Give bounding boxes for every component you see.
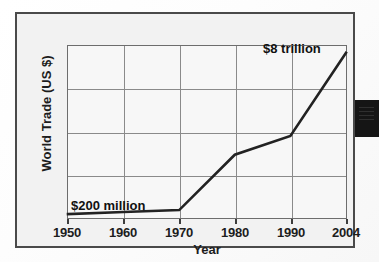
tick-mark-2004	[346, 219, 348, 224]
tab-ridge-2	[359, 111, 374, 112]
x-axis-title: Year	[67, 242, 347, 257]
tick-mark-1960	[123, 219, 125, 224]
y-axis-title: World Trade (US $)	[39, 25, 54, 203]
series-world-trade-line	[68, 53, 346, 214]
figure-page: $200 million $8 trillion 1950 1960 1970 …	[0, 0, 379, 262]
x-tick-label-1960: 1960	[100, 225, 146, 240]
page-edge-tab	[355, 100, 379, 137]
tick-mark-1980	[235, 219, 237, 224]
tick-mark-1950	[67, 219, 69, 224]
figure-frame: $200 million $8 trillion 1950 1960 1970 …	[15, 12, 355, 248]
x-tick-label-1990: 1990	[268, 225, 314, 240]
data-line-layer	[68, 46, 346, 218]
tick-mark-1970	[179, 219, 181, 224]
x-tick-label-1980: 1980	[212, 225, 258, 240]
tab-ridge-1	[359, 107, 374, 108]
tick-mark-1990	[291, 219, 293, 224]
tab-ridge-3	[359, 115, 374, 116]
annotation-8-trillion: $8 trillion	[263, 41, 321, 56]
annotation-200-million: $200 million	[71, 198, 145, 213]
tab-ridge-4	[359, 119, 374, 120]
x-tick-label-1950: 1950	[44, 225, 90, 240]
x-tick-label-2004: 2004	[323, 225, 369, 240]
plot-inner	[68, 46, 346, 218]
plot-area	[67, 45, 347, 219]
x-tick-label-1970: 1970	[156, 225, 202, 240]
